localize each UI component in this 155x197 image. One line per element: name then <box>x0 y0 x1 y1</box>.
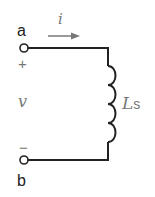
terminal-b <box>20 156 28 164</box>
circuit-diagram: a i + v Ls − b <box>0 0 155 197</box>
inductor-label-sub: s <box>133 96 140 112</box>
plus-sign: + <box>18 56 27 71</box>
current-arrowhead-icon <box>71 33 80 40</box>
current-label: i <box>58 12 63 27</box>
inductor-label-main: L <box>122 93 133 113</box>
terminal-b-label: b <box>17 173 26 189</box>
terminal-a-label: a <box>17 23 26 39</box>
inductor-label: Ls <box>122 95 140 112</box>
voltage-label: v <box>18 94 27 110</box>
terminal-a <box>20 44 28 52</box>
inductor-coil <box>108 66 116 142</box>
minus-sign: − <box>19 140 28 155</box>
